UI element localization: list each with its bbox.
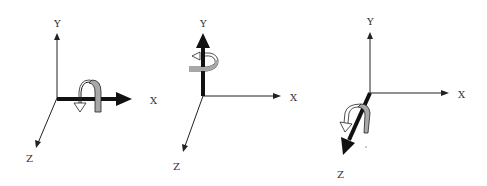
x-axis-label: X — [458, 89, 466, 100]
x-axis-label: X — [290, 92, 298, 103]
y-axis-label: Y — [53, 18, 61, 29]
z-axis-label: Z — [337, 169, 344, 180]
x-axis-highlighted — [57, 92, 132, 106]
z-axis — [182, 96, 203, 152]
x-axis — [203, 93, 281, 99]
z-axis — [35, 98, 57, 148]
panel-rotation-x: Y Z X — [0, 0, 170, 186]
y-axis-label: Y — [199, 18, 207, 29]
rotation-arrow-icon — [74, 80, 101, 112]
z-axis-label: Z — [173, 161, 180, 172]
y-axis-label: Y — [366, 16, 374, 27]
y-axis — [54, 33, 60, 98]
speck — [365, 146, 366, 147]
panel-rotation-z: Y X Z — [315, 0, 487, 186]
y-axis-highlighted — [196, 33, 210, 96]
y-axis — [367, 32, 373, 93]
z-axis-label: Z — [26, 153, 33, 164]
x-axis — [370, 90, 449, 96]
panel-rotation-y: X Z Y — [155, 0, 325, 186]
